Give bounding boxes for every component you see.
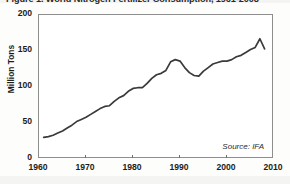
x-tick-label-1970: 1970	[65, 162, 105, 172]
x-tick-mark-1980	[132, 155, 133, 158]
figure-title: Figure 1. World Nitrogen Fertilizer Cons…	[0, 0, 290, 5]
source-note: Source: IFA	[222, 142, 264, 151]
y-tick-label-200: 200	[4, 9, 32, 18]
x-tick-label-1960: 1960	[18, 162, 58, 172]
y-axis: 200 150 100 50 0 Million Tons	[0, 0, 32, 184]
figure-title-clipped: Figure 1. World Nitrogen Fertilizer Cons…	[0, 0, 290, 5]
y-tick-label-50: 50	[4, 117, 32, 126]
x-tick-label-2010: 2010	[253, 162, 290, 172]
series-line-nitrogen-consumption	[44, 39, 265, 138]
x-tick-label-1990: 1990	[159, 162, 199, 172]
data-line-svg	[39, 15, 274, 159]
scan-texture-bottom	[0, 176, 290, 184]
x-tick-label-2000: 2000	[206, 162, 246, 172]
plot-area: Source: IFA	[38, 14, 273, 158]
x-tick-mark-2000	[226, 155, 227, 158]
chart-figure: Figure 1. World Nitrogen Fertilizer Cons…	[0, 0, 290, 184]
x-tick-label-1980: 1980	[112, 162, 152, 172]
y-axis-title: Million Tons	[6, 29, 16, 109]
x-tick-mark-1990	[179, 155, 180, 158]
x-tick-mark-1970	[85, 155, 86, 158]
y-tick-label-0: 0	[4, 153, 32, 162]
